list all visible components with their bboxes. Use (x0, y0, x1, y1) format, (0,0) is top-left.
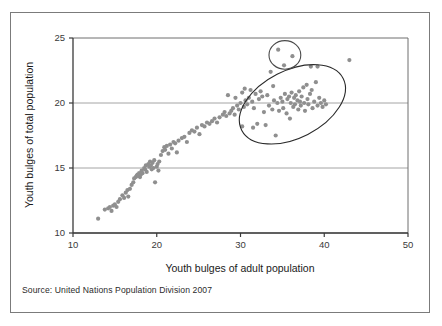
figure-container: 101520251020304050 Youth bulges of adult… (0, 0, 442, 326)
data-point (122, 196, 126, 200)
axis-ticks-layer: 101520251020304050 (54, 32, 413, 250)
data-point (173, 141, 177, 145)
data-point (322, 98, 326, 102)
data-point (159, 153, 163, 157)
data-point (140, 171, 144, 175)
data-point (305, 83, 309, 87)
data-point (131, 180, 135, 184)
data-point (265, 93, 269, 97)
data-point (170, 146, 174, 150)
data-point (109, 209, 113, 213)
data-point (157, 159, 161, 163)
data-point (262, 110, 266, 114)
data-point (156, 169, 160, 173)
data-point (276, 48, 280, 52)
data-point (324, 102, 328, 106)
x-tick-label-40: 40 (319, 239, 330, 250)
data-point (259, 89, 263, 93)
data-point (245, 102, 249, 106)
data-point (222, 110, 226, 114)
data-point (238, 101, 242, 105)
data-point (145, 170, 149, 174)
data-point (310, 106, 314, 110)
data-point (185, 140, 189, 144)
data-point (301, 85, 305, 89)
data-point (287, 94, 291, 98)
annotations-layer (226, 41, 358, 161)
data-point (153, 180, 157, 184)
data-point (315, 104, 319, 108)
data-point (231, 106, 235, 110)
data-point (237, 107, 241, 111)
data-point (289, 91, 293, 95)
data-point (308, 92, 312, 96)
data-point (202, 124, 206, 128)
data-point (255, 122, 259, 126)
data-point (166, 152, 170, 156)
data-point (298, 100, 302, 104)
data-point (293, 102, 297, 106)
data-point (271, 84, 275, 88)
data-point (319, 101, 323, 105)
data-point (269, 70, 273, 74)
data-points-layer (96, 48, 351, 221)
y-tick-label-20: 20 (54, 97, 65, 108)
data-point (224, 114, 228, 118)
data-point (182, 135, 186, 139)
data-point (317, 96, 321, 100)
data-point (235, 104, 239, 108)
y-axis-title: Youth bulges of total population (23, 62, 35, 208)
data-point (264, 123, 268, 127)
data-point (310, 88, 314, 92)
gridlines (73, 103, 408, 233)
data-point (270, 107, 274, 111)
data-point (233, 113, 237, 117)
data-point (168, 143, 172, 147)
data-point (274, 133, 278, 137)
data-point (320, 105, 324, 109)
x-tick-label-30: 30 (235, 239, 246, 250)
y-tick-label-25: 25 (54, 32, 65, 43)
data-point (280, 100, 284, 104)
data-point (192, 130, 196, 134)
data-point (299, 104, 303, 108)
data-point (195, 126, 199, 130)
data-point (279, 96, 283, 100)
data-point (283, 92, 287, 96)
data-point (277, 109, 281, 113)
data-point (314, 80, 318, 84)
source-note: Source: United Nations Population Divisi… (22, 285, 212, 295)
data-point (257, 97, 261, 101)
data-point (284, 111, 288, 115)
data-point (300, 94, 304, 98)
data-point (152, 158, 156, 162)
data-point (118, 197, 122, 201)
data-point (260, 94, 264, 98)
data-point (197, 132, 201, 136)
data-point (305, 97, 309, 101)
data-point (128, 187, 132, 191)
data-point (275, 101, 279, 105)
data-point (306, 102, 310, 106)
data-point (252, 106, 256, 110)
data-point (303, 109, 307, 113)
data-point (251, 126, 255, 130)
data-point (163, 148, 167, 152)
data-point (212, 117, 216, 121)
data-point (267, 104, 271, 108)
data-point (297, 89, 301, 93)
data-point (240, 91, 244, 95)
data-point (243, 87, 247, 91)
data-point (233, 96, 237, 100)
data-point (347, 58, 351, 62)
x-tick-label-50: 50 (403, 239, 414, 250)
data-point (126, 195, 130, 199)
x-tick-label-10: 10 (68, 239, 79, 250)
data-point (290, 54, 294, 58)
data-point (289, 101, 293, 105)
data-point (253, 92, 257, 96)
data-point (248, 88, 252, 92)
data-point (114, 205, 118, 209)
y-tick-label-15: 15 (54, 162, 65, 173)
data-point (312, 100, 316, 104)
